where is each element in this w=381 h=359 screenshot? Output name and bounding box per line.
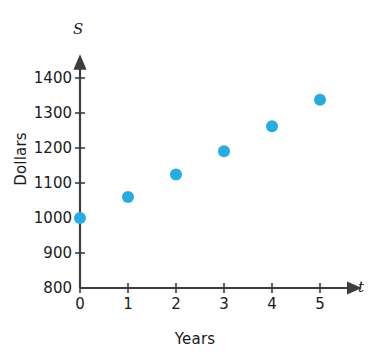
data-point	[218, 145, 230, 157]
plot-area	[0, 0, 381, 359]
data-point	[314, 94, 326, 106]
scatter-chart-figure: S t Dollars Years 8009001000110012001300…	[0, 0, 381, 359]
data-points-group	[74, 94, 326, 224]
data-point	[74, 212, 86, 224]
axes-group	[80, 68, 349, 289]
tick-marks-group	[75, 78, 320, 293]
data-point	[122, 191, 134, 203]
data-point	[266, 120, 278, 132]
data-point	[170, 169, 182, 181]
